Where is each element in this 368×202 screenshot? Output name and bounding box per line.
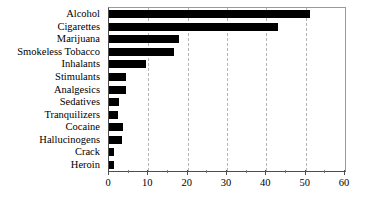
plot-area — [108, 7, 346, 172]
x-tick-major — [108, 170, 109, 175]
category-label: Stimulants — [55, 70, 100, 81]
x-tick-minor — [285, 170, 286, 173]
bar — [109, 35, 179, 43]
category-label: Heroin — [71, 158, 100, 169]
category-label: Hallucinogens — [39, 133, 100, 144]
bar — [109, 48, 174, 56]
bar — [109, 161, 114, 169]
x-axis: 0102030405060 — [108, 170, 344, 202]
category-label: Marijuana — [57, 33, 100, 44]
bar-series — [109, 8, 345, 171]
bar — [109, 60, 146, 68]
category-label: Alcohol — [66, 8, 100, 19]
x-tick-label: 40 — [260, 177, 271, 189]
category-label: Cigarettes — [57, 20, 100, 31]
category-label: Crack — [75, 146, 100, 157]
category-label: Analgesics — [54, 83, 100, 94]
x-tick-minor — [128, 170, 129, 173]
bar — [109, 86, 126, 94]
bar — [109, 10, 310, 18]
x-tick-major — [226, 170, 227, 175]
x-tick-major — [305, 170, 306, 175]
bar — [109, 148, 114, 156]
x-tick-major — [265, 170, 266, 175]
bar — [109, 123, 123, 131]
bar — [109, 136, 122, 144]
x-tick-label: 0 — [105, 177, 110, 189]
category-label: Smokeless Tobacco — [17, 45, 100, 56]
bar — [109, 111, 118, 119]
x-tick-minor — [324, 170, 325, 173]
x-tick-label: 50 — [299, 177, 310, 189]
bar — [109, 73, 126, 81]
x-tick-major — [187, 170, 188, 175]
category-label: Inhalants — [62, 58, 101, 69]
x-tick-label: 30 — [221, 177, 232, 189]
category-label: Sedatives — [60, 96, 100, 107]
bar — [109, 98, 119, 106]
x-tick-minor — [246, 170, 247, 173]
x-tick-major — [344, 170, 345, 175]
bar-chart: AlcoholCigarettesMarijuanaSmokeless Toba… — [0, 0, 368, 202]
x-tick-minor — [206, 170, 207, 173]
category-label: Tranquilizers — [44, 108, 100, 119]
x-tick-label: 60 — [339, 177, 350, 189]
x-tick-label: 10 — [142, 177, 153, 189]
bar — [109, 23, 278, 31]
category-axis: AlcoholCigarettesMarijuanaSmokeless Toba… — [0, 7, 104, 170]
x-tick-major — [147, 170, 148, 175]
category-label: Cocaine — [66, 121, 100, 132]
x-tick-label: 20 — [181, 177, 192, 189]
x-tick-minor — [167, 170, 168, 173]
